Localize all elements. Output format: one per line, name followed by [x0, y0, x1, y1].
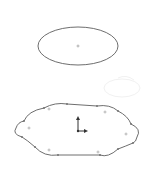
- sketch-graphics: [0, 0, 158, 173]
- sketch-canvas[interactable]: ellipse closed-profile origin: [0, 0, 158, 173]
- background: [0, 0, 158, 173]
